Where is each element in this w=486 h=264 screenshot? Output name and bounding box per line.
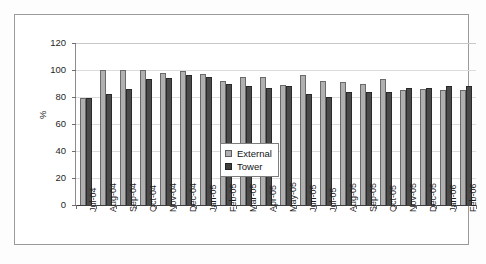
legend-item-tower: Tower <box>225 160 272 173</box>
x-axis-tick-label: May-05 <box>289 182 298 212</box>
bar-group <box>136 43 156 205</box>
bar-group <box>436 43 456 205</box>
y-axis-tick-label: 100 <box>36 65 66 75</box>
y-axis-tick <box>72 205 76 206</box>
bar-external-sep-04 <box>120 70 126 205</box>
chart-figure: % Jul-04Aug-04Sep-04Oct-04Nov-04Dec-04Ja… <box>0 0 486 264</box>
bar-external-feb-06 <box>460 90 466 205</box>
chart-frame: % Jul-04Aug-04Sep-04Oct-04Nov-04Dec-04Ja… <box>14 14 469 245</box>
legend-swatch-tower-icon <box>225 163 232 170</box>
x-axis-tick-label: Nov-05 <box>409 183 418 212</box>
legend-swatch-external-icon <box>225 150 232 157</box>
bar-group <box>296 43 316 205</box>
bar-external-dec-05 <box>420 89 426 205</box>
x-axis-tick-label: Sep-05 <box>369 183 378 212</box>
x-axis-tick-label: Mar-05 <box>249 183 258 212</box>
x-axis-tick-label: Feb-05 <box>229 183 238 212</box>
bar-group <box>316 43 336 205</box>
x-axis-tick-label: Jan-05 <box>209 184 218 212</box>
bar-group <box>396 43 416 205</box>
bar-group <box>456 43 476 205</box>
bar-external-nov-04 <box>160 73 166 205</box>
y-axis-tick <box>72 151 76 152</box>
x-axis-tick-label: Sep-04 <box>129 183 138 212</box>
legend-item-external: External <box>225 147 272 160</box>
y-axis-tick <box>72 43 76 44</box>
bar-external-jan-06 <box>440 90 446 205</box>
y-axis-tick-label: 120 <box>36 38 66 48</box>
y-axis-tick-label: 20 <box>36 173 66 183</box>
x-axis-tick <box>76 205 77 209</box>
x-axis-tick-label: Dec-05 <box>429 183 438 212</box>
bar-external-dec-04 <box>180 71 186 205</box>
bar-external-oct-04 <box>140 70 146 205</box>
y-axis-tick <box>72 97 76 98</box>
bar-external-jul-05 <box>320 81 326 205</box>
bar-group <box>76 43 96 205</box>
x-axis-tick-label: Aug-05 <box>349 183 358 212</box>
x-axis-tick-label: Feb-06 <box>469 183 478 212</box>
y-axis-tick <box>72 178 76 179</box>
x-axis-tick-label: Jun-05 <box>309 184 318 212</box>
bar-group <box>376 43 396 205</box>
bar-group <box>196 43 216 205</box>
plot-area <box>75 43 476 206</box>
bar-group <box>256 43 276 205</box>
x-axis-tick-label: Jul-04 <box>89 187 98 212</box>
x-axis-tick-label: Jul-05 <box>329 187 338 212</box>
y-axis-tick <box>72 124 76 125</box>
bar-group <box>96 43 116 205</box>
bar-external-aug-05 <box>340 82 346 205</box>
bar-group <box>116 43 136 205</box>
bar-group <box>356 43 376 205</box>
bar-external-jan-05 <box>200 74 206 205</box>
y-axis-tick-label: 60 <box>36 119 66 129</box>
bar-external-nov-05 <box>400 90 406 205</box>
y-axis-tick-label: 0 <box>36 200 66 210</box>
bar-external-aug-04 <box>100 70 106 205</box>
bar-external-jul-04 <box>80 98 86 205</box>
bar-external-mar-05 <box>240 77 246 205</box>
chart-legend: ExternalTower <box>220 143 279 177</box>
x-axis-tick-label: Nov-04 <box>169 183 178 212</box>
y-axis-title: % <box>37 111 48 119</box>
bar-group <box>176 43 196 205</box>
bar-external-apr-05 <box>260 77 266 205</box>
x-axis-tick-label: Dec-04 <box>189 183 198 212</box>
bar-group <box>276 43 296 205</box>
bar-external-may-05 <box>280 85 286 205</box>
bar-external-sep-05 <box>360 84 366 206</box>
x-axis-tick-label: Jan-06 <box>449 184 458 212</box>
x-axis-tick-label: Apr-05 <box>269 185 278 212</box>
bar-series-container <box>76 43 476 205</box>
bar-external-jun-05 <box>300 75 306 205</box>
x-axis-tick-label: Oct-05 <box>389 185 398 212</box>
x-axis-tick-label: Oct-04 <box>149 185 158 212</box>
bar-group <box>336 43 356 205</box>
y-axis-tick <box>72 70 76 71</box>
legend-label: External <box>237 149 272 159</box>
bar-group <box>156 43 176 205</box>
y-axis-tick-label: 80 <box>36 92 66 102</box>
bar-external-oct-05 <box>380 79 386 205</box>
bar-group <box>236 43 256 205</box>
legend-label: Tower <box>237 162 262 172</box>
bar-group <box>216 43 236 205</box>
y-axis-tick-label: 40 <box>36 146 66 156</box>
x-axis-tick-label: Aug-04 <box>109 183 118 212</box>
bar-group <box>416 43 436 205</box>
